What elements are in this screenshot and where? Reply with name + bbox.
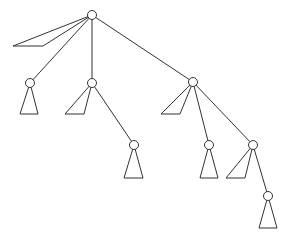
tree-node-n2 [88, 79, 97, 88]
tree-diagram [0, 0, 295, 242]
subtree-triangle [13, 15, 92, 46]
tree-edge [193, 82, 209, 145]
tree-node-n6 [249, 141, 258, 150]
subtree-triangle [161, 82, 193, 114]
tree-edge [30, 15, 92, 83]
tree-node-root [88, 11, 97, 20]
subtree-triangle [65, 83, 92, 114]
subtree-triangles [13, 15, 277, 228]
tree-edge [253, 145, 268, 196]
tree-node-n7 [264, 192, 273, 201]
tree-edge [193, 82, 253, 145]
tree-edge [92, 83, 134, 145]
tree-edge [92, 15, 193, 82]
tree-node-n5 [205, 141, 214, 150]
tree-edges [30, 15, 268, 196]
tree-node-n3 [189, 78, 198, 87]
subtree-triangle [226, 145, 253, 178]
tree-node-n1 [26, 79, 35, 88]
tree-node-n4 [130, 141, 139, 150]
